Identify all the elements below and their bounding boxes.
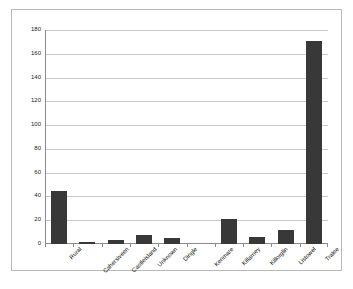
y-tick-label-180: 180 (31, 26, 41, 33)
bar[interactable] (136, 235, 152, 245)
x-tick-label-castleisland: Castleisland (130, 246, 158, 274)
bar-slot (45, 30, 73, 244)
x-tick-label-unknown: Unknown (156, 246, 179, 269)
y-axis-tick-labels: 180160140120100806040200 (12, 30, 41, 244)
bar-slot (73, 30, 101, 244)
y-tick-label-120: 120 (31, 97, 41, 104)
bar-series (45, 30, 328, 244)
y-tick-label-0: 0 (38, 240, 41, 247)
x-axis-tick-labels: RuralCahersiveenCastleislandUnknownDingl… (45, 246, 328, 280)
bar[interactable] (306, 41, 322, 244)
y-tick-label-100: 100 (31, 121, 41, 128)
x-tick-label-listowel: Listowel (297, 246, 317, 266)
x-tick-label-dingle: Dingle (182, 246, 199, 263)
x-tick-label-cahersiveen: Cahersiveen (102, 246, 131, 275)
bar-slot (271, 30, 299, 244)
bar[interactable] (221, 219, 237, 244)
bar-slot (187, 30, 215, 244)
bar-slot (130, 30, 158, 244)
x-tick-label-killorglin: Killorglin (269, 246, 290, 267)
bar-slot (300, 30, 328, 244)
y-tick-label-140: 140 (31, 74, 41, 81)
bar[interactable] (278, 230, 294, 244)
y-tick-label-80: 80 (34, 145, 41, 152)
x-tick-label-kenmare: Kenmare (213, 246, 235, 268)
y-tick-label-20: 20 (34, 216, 41, 223)
bar[interactable] (249, 237, 265, 244)
x-tick-label-rural: Rural (68, 246, 83, 261)
bar[interactable] (51, 191, 67, 245)
y-tick-label-60: 60 (34, 169, 41, 176)
chart-frame: 180160140120100806040200 RuralCahersivee… (11, 9, 342, 271)
bar-slot (243, 30, 271, 244)
x-tick-label-tralee: Tralee (324, 246, 341, 263)
figure-canvas: 180160140120100806040200 RuralCahersivee… (0, 0, 353, 289)
y-tick-label-40: 40 (34, 192, 41, 199)
x-tick-label-killarney: Killarney (241, 246, 262, 267)
bar-slot (102, 30, 130, 244)
y-tick-label-160: 160 (31, 50, 41, 57)
bar-slot (215, 30, 243, 244)
bar-slot (158, 30, 186, 244)
